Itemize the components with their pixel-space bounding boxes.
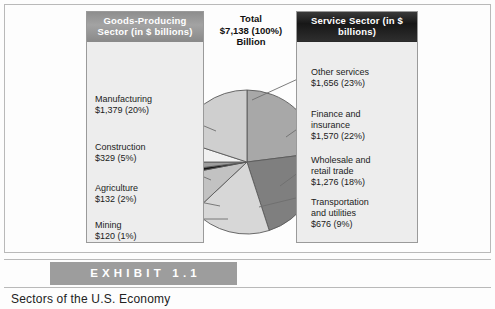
callout-transportation-utilities-name: Transportation [311, 197, 369, 208]
total-line-1: Total [206, 13, 296, 25]
callout-mining: Mining $120 (1%) [95, 220, 137, 242]
callout-manufacturing: Manufacturing $1,379 (20%) [95, 94, 152, 116]
service-header-line-1: Service Sector [311, 15, 380, 26]
callout-finance-insurance: Finance and insurance $1,570 (22%) [311, 109, 365, 142]
service-sector-body: Other services $1,656 (23%) Finance and … [297, 42, 417, 243]
callout-mining-name: Mining [95, 220, 137, 231]
goods-producing-sector-body: Manufacturing $1,379 (20%) Construction … [87, 42, 203, 243]
total-label: Total $7,138 (100%) Billion [206, 13, 296, 48]
service-sector-header: Service Sector (in $ billions) [297, 12, 417, 42]
callout-transportation-utilities-value: $676 (9%) [311, 219, 369, 230]
goods-header-line-2: (in $ billions) [131, 26, 193, 37]
callout-other-services: Other services $1,656 (23%) [311, 67, 369, 89]
callout-transportation-utilities-name-2: and utilities [311, 208, 369, 219]
callout-wholesale-retail-name: Wholesale and [311, 155, 371, 166]
callout-manufacturing-name: Manufacturing [95, 94, 152, 105]
exhibit-rule-top [4, 259, 491, 260]
callout-manufacturing-value: $1,379 (20%) [95, 105, 152, 116]
exhibit-number-bar: EXHIBIT 1.1 [50, 262, 237, 285]
callout-wholesale-retail-name-2: retail trade [311, 166, 371, 177]
callout-finance-insurance-name: Finance and [311, 109, 365, 120]
callout-mining-value: $120 (1%) [95, 231, 137, 242]
callout-finance-insurance-value: $1,570 (22%) [311, 131, 365, 142]
callout-wholesale-retail: Wholesale and retail trade $1,276 (18%) [311, 155, 371, 188]
exhibit-number-label: EXHIBIT 1.1 [50, 262, 237, 285]
callout-agriculture-name: Agriculture [95, 183, 138, 194]
callout-other-services-name: Other services [311, 67, 369, 78]
total-line-3: Billion [206, 36, 296, 48]
callout-construction-value: $329 (5%) [95, 153, 146, 164]
callout-construction-name: Construction [95, 142, 146, 153]
exhibit-caption: Sectors of the U.S. Economy [11, 292, 170, 306]
callout-transportation-utilities: Transportation and utilities $676 (9%) [311, 197, 369, 230]
callout-agriculture-value: $132 (2%) [95, 194, 138, 205]
callout-agriculture: Agriculture $132 (2%) [95, 183, 138, 205]
callout-finance-insurance-name-2: insurance [311, 120, 365, 131]
callout-other-services-value: $1,656 (23%) [311, 78, 369, 89]
total-line-2: $7,138 (100%) [206, 25, 296, 37]
service-sector-panel: Service Sector (in $ billions) Other ser… [296, 11, 418, 243]
goods-producing-sector-header: Goods-Producing Sector (in $ billions) [87, 12, 203, 42]
callout-construction: Construction $329 (5%) [95, 142, 146, 164]
exhibit-rule-bottom [4, 287, 491, 288]
exhibit-figure: Total $7,138 (100%) Billion Goods-Produc… [0, 0, 495, 309]
goods-producing-sector-panel: Goods-Producing Sector (in $ billions) M… [86, 11, 204, 243]
callout-wholesale-retail-value: $1,276 (18%) [311, 177, 371, 188]
